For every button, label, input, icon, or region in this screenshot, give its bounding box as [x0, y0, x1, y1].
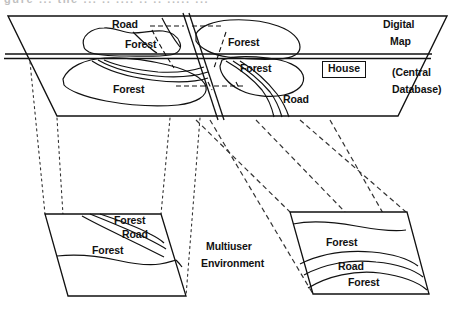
proj-left-4: [186, 118, 200, 296]
multiuser-label-line2: Environment: [201, 258, 264, 269]
proj-right-1: [196, 120, 290, 212]
map-label-forest-4: Forest: [113, 84, 145, 95]
right-inset-label-forest-1: Forest: [326, 237, 358, 248]
left-inset-label-forest-2: Forest: [92, 245, 124, 256]
left-inset-label-road: Road: [122, 229, 148, 240]
map-label-forest-1: Forest: [125, 39, 157, 50]
house-label-box: House: [322, 61, 366, 78]
map-label-forest-3: Forest: [240, 63, 272, 74]
proj-right-4: [300, 120, 406, 212]
main-plane-group: [8, 16, 447, 116]
multiuser-label-line1: Multiuser: [206, 241, 252, 252]
left-inset-label-forest-1: Forest: [114, 215, 146, 226]
figure-root: gure ... the ... .. .... .. .. ..... ...: [0, 0, 459, 311]
digital-map-title-line2: Map: [390, 36, 411, 47]
digital-map-plane-outline: [8, 16, 447, 116]
central-database-line1: (Central: [392, 67, 431, 78]
map-label-road-2: Road: [283, 94, 309, 105]
map-label-forest-2: Forest: [228, 37, 260, 48]
central-database-line2: Database): [392, 84, 441, 95]
proj-right-3: [256, 120, 345, 212]
right-inset-label-forest-2: Forest: [348, 277, 380, 288]
digital-map-title-line1: Digital: [383, 19, 414, 30]
proj-left-3: [161, 118, 170, 214]
right-inset-label-road: Road: [338, 261, 364, 272]
map-label-road-1: Road: [112, 19, 138, 30]
